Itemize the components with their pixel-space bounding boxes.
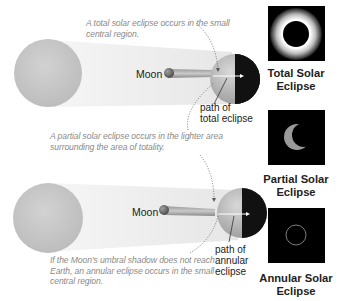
moon-icon <box>159 205 169 215</box>
moon-label-total: Moon <box>136 68 162 80</box>
sun-icon <box>13 183 83 253</box>
annular-eclipse-geometry <box>13 155 267 253</box>
path-of-total-eclipse-label: path of total eclipse <box>200 102 253 124</box>
total-eclipse-photo <box>268 6 325 61</box>
annular-eclipse-caption: If the Moon's umbral shadow does not rea… <box>50 255 215 287</box>
total-solar-eclipse-title: Total Solar Eclipse <box>256 67 336 92</box>
sun-icon <box>14 39 82 107</box>
annular-solar-eclipse-title: Annular Solar Eclipse <box>256 272 336 297</box>
moon-icon <box>164 68 174 78</box>
annular-eclipse-photo <box>268 208 325 263</box>
partial-eclipse-caption: A partial solar eclipse occurs in the li… <box>50 131 223 152</box>
partial-solar-eclipse-title: Partial Solar Eclipse <box>256 173 336 198</box>
partial-eclipse-photo <box>268 110 325 165</box>
total-eclipse-caption: A total solar eclipse occurs in the smal… <box>86 18 230 39</box>
umbra-shadow <box>168 69 213 78</box>
moon-label-annular: Moon <box>132 206 158 218</box>
path-of-annular-eclipse-label: path of annular eclipse <box>215 244 248 277</box>
